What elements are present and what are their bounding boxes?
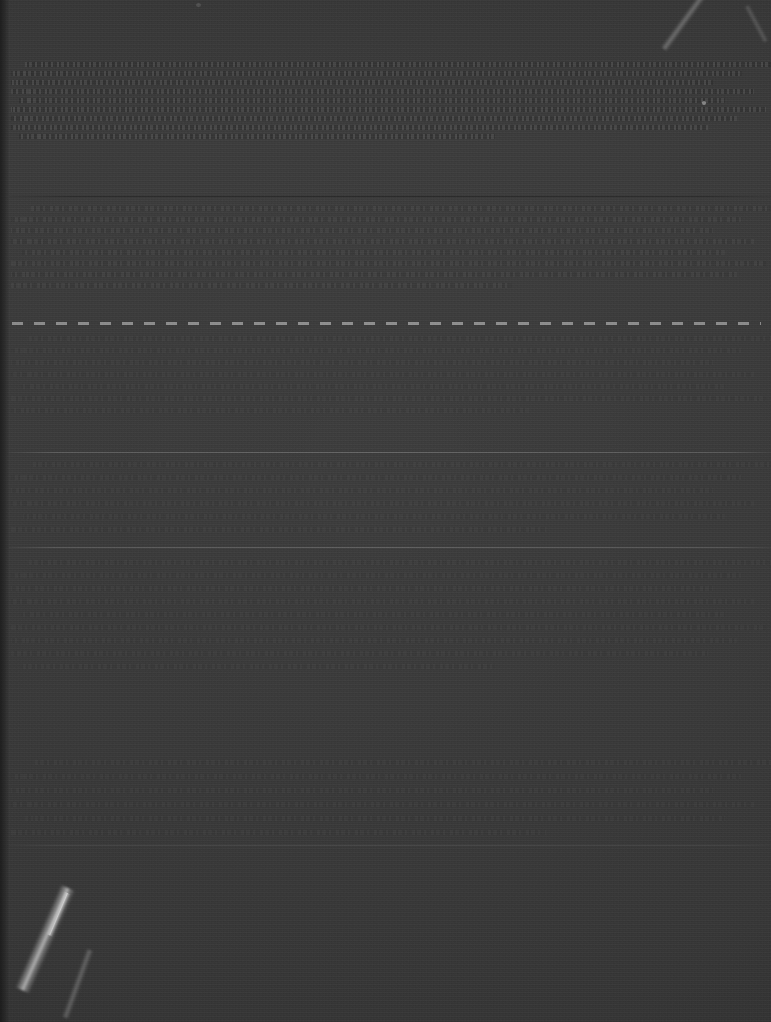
dashed-separator: [12, 322, 761, 325]
lower-mid-rule: [9, 547, 771, 548]
paper-background: [0, 0, 771, 1022]
mid-rule: [9, 452, 771, 453]
lower-rule: [9, 845, 771, 846]
scanned-document-page: [0, 0, 771, 1022]
upper-rule: [9, 196, 771, 197]
page-border-left: [0, 0, 9, 1022]
